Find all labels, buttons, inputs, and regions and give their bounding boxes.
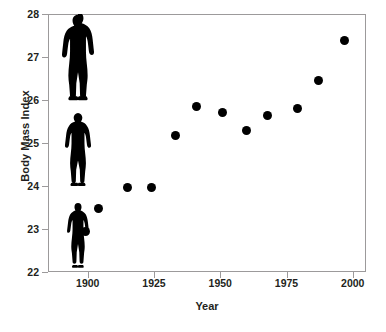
y-tick-mark xyxy=(42,143,48,144)
x-axis-title: Year xyxy=(48,300,366,312)
human-silhouette-medium xyxy=(60,110,96,190)
data-point xyxy=(314,76,323,85)
y-tick-label: 28 xyxy=(0,9,39,20)
human-silhouette-large xyxy=(57,14,99,102)
y-axis-title: Body Mass Index xyxy=(19,56,31,216)
data-point xyxy=(123,183,132,192)
data-point xyxy=(293,104,302,113)
data-point xyxy=(171,131,180,140)
y-tick-mark xyxy=(42,57,48,58)
y-tick-mark xyxy=(42,14,48,15)
y-tick-label: 26 xyxy=(0,95,39,106)
y-tick-mark xyxy=(42,272,48,273)
y-tick-mark xyxy=(42,100,48,101)
y-tick-label: 23 xyxy=(0,224,39,235)
x-tick-label: 1900 xyxy=(58,278,118,289)
y-tick-mark xyxy=(42,186,48,187)
x-tick-label: 1950 xyxy=(190,278,250,289)
data-point xyxy=(242,126,251,135)
y-tick-label: 27 xyxy=(0,52,39,63)
y-tick-mark xyxy=(42,229,48,230)
bmi-scatter-chart: Body Mass Index Year 22232425262728 1900… xyxy=(0,0,386,332)
x-tick-label: 1975 xyxy=(257,278,317,289)
y-tick-label: 25 xyxy=(0,138,39,149)
y-tick-label: 24 xyxy=(0,181,39,192)
x-tick-label: 1925 xyxy=(124,278,184,289)
data-point xyxy=(147,183,156,192)
data-point xyxy=(192,102,201,111)
x-tick-label: 2000 xyxy=(323,278,383,289)
data-point xyxy=(218,108,227,117)
data-point xyxy=(340,36,349,45)
y-tick-label: 22 xyxy=(0,267,39,278)
human-silhouette-small xyxy=(62,200,94,272)
